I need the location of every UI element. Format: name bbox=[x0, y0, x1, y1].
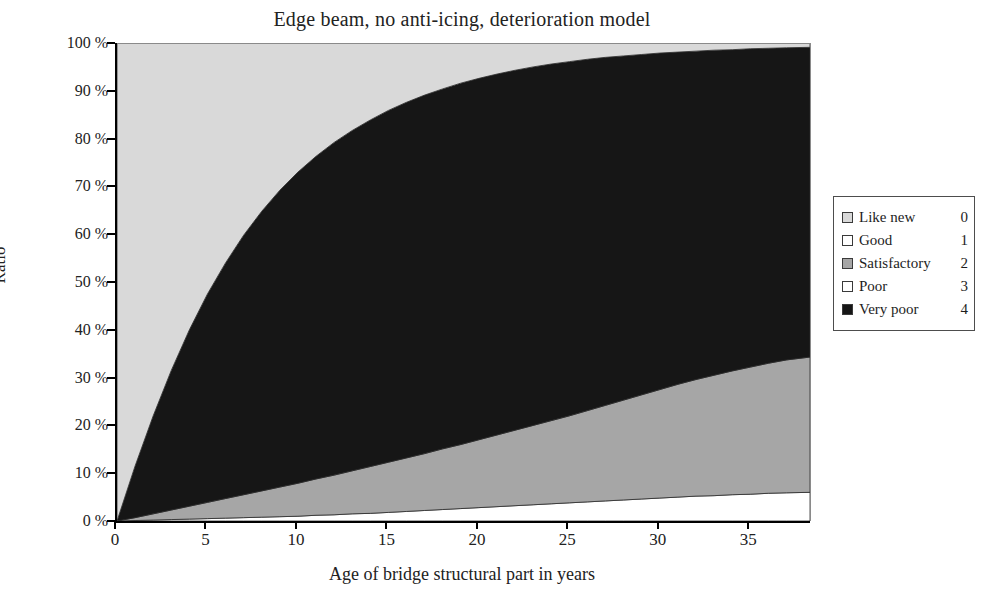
y-axis-tick-label: 60 % bbox=[46, 225, 108, 243]
stacked-area-plot bbox=[117, 43, 810, 521]
x-axis-tick-mark bbox=[566, 521, 568, 529]
y-axis-tick-label: 20 % bbox=[46, 416, 108, 434]
y-axis-tick-mark bbox=[107, 377, 115, 379]
legend-item-value: 0 bbox=[957, 209, 969, 226]
chart-legend: Like new0Good1Satisfactory2Poor3Very poo… bbox=[833, 196, 975, 331]
plot-area bbox=[115, 43, 810, 523]
y-axis-tick-mark bbox=[107, 281, 115, 283]
y-axis-tick-label: 30 % bbox=[46, 369, 108, 387]
legend-item-label: Good bbox=[859, 232, 957, 249]
x-axis-tick-label: 35 bbox=[740, 530, 757, 550]
y-axis-title: Ratio bbox=[0, 247, 10, 284]
x-axis-tick-mark bbox=[204, 521, 206, 529]
x-axis-tick-mark bbox=[295, 521, 297, 529]
y-axis-tick-label: 50 % bbox=[46, 273, 108, 291]
x-axis-tick-label: 0 bbox=[111, 530, 120, 550]
legend-swatch-icon bbox=[842, 212, 853, 223]
x-axis-tick-mark bbox=[747, 521, 749, 529]
legend-item[interactable]: Like new0 bbox=[842, 206, 968, 229]
chart-figure: Edge beam, no anti-icing, deterioration … bbox=[0, 0, 982, 607]
x-axis-tick-label: 25 bbox=[559, 530, 576, 550]
legend-swatch-icon bbox=[842, 258, 853, 269]
legend-item-value: 4 bbox=[957, 301, 969, 318]
y-axis-tick-mark bbox=[107, 138, 115, 140]
x-axis-tick-label: 5 bbox=[201, 530, 210, 550]
y-axis-tick-label: 80 % bbox=[46, 130, 108, 148]
legend-swatch-icon bbox=[842, 281, 853, 292]
plot-frame-right-border bbox=[810, 43, 811, 521]
x-axis-tick-label: 20 bbox=[468, 530, 485, 550]
x-axis-tick-label: 15 bbox=[378, 530, 395, 550]
plot-frame-top-border bbox=[117, 43, 811, 44]
y-axis-tick-label: 90 % bbox=[46, 82, 108, 100]
legend-item-value: 2 bbox=[957, 255, 969, 272]
y-axis-tick-label: 0 % bbox=[46, 512, 108, 530]
x-axis-tick-mark bbox=[114, 521, 116, 529]
x-axis-tick-label: 30 bbox=[649, 530, 666, 550]
y-axis-tick-label: 70 % bbox=[46, 177, 108, 195]
y-axis-tick-mark bbox=[107, 90, 115, 92]
chart-title: Edge beam, no anti-icing, deterioration … bbox=[115, 8, 809, 31]
legend-item[interactable]: Very poor4 bbox=[842, 298, 968, 321]
legend-swatch-icon bbox=[842, 235, 853, 246]
y-axis-tick-mark bbox=[107, 329, 115, 331]
x-axis-tick-mark bbox=[476, 521, 478, 529]
x-axis-tick-label: 10 bbox=[287, 530, 304, 550]
legend-item-label: Satisfactory bbox=[859, 255, 957, 272]
legend-item-label: Like new bbox=[859, 209, 957, 226]
legend-item-label: Very poor bbox=[859, 301, 957, 318]
legend-item[interactable]: Satisfactory2 bbox=[842, 252, 968, 275]
y-axis-tick-mark bbox=[107, 185, 115, 187]
legend-swatch-icon bbox=[842, 304, 853, 315]
x-axis-tick-mark bbox=[657, 521, 659, 529]
x-axis-tick-mark bbox=[385, 521, 387, 529]
y-axis-tick-mark bbox=[107, 424, 115, 426]
legend-item-value: 1 bbox=[957, 232, 969, 249]
y-axis-tick-label: 100 % bbox=[46, 34, 108, 52]
y-axis-tick-mark bbox=[107, 233, 115, 235]
y-axis-tick-mark bbox=[107, 472, 115, 474]
legend-item[interactable]: Poor3 bbox=[842, 275, 968, 298]
y-axis-tick-label: 10 % bbox=[46, 464, 108, 482]
legend-item-label: Poor bbox=[859, 278, 957, 295]
y-axis-tick-labels: 0 %10 %20 %30 %40 %50 %60 %70 %80 %90 %1… bbox=[38, 43, 108, 521]
legend-item[interactable]: Good1 bbox=[842, 229, 968, 252]
y-axis-tick-mark bbox=[107, 42, 115, 44]
x-axis-title: Age of bridge structural part in years bbox=[115, 564, 809, 585]
y-axis-tick-label: 40 % bbox=[46, 321, 108, 339]
legend-item-value: 3 bbox=[957, 278, 969, 295]
